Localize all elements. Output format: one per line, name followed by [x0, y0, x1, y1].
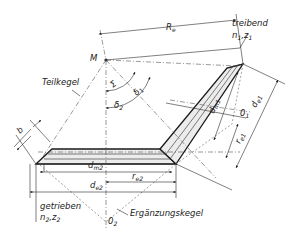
delta2-label: δ2: [114, 100, 123, 111]
delta1-label: δ1: [131, 84, 145, 98]
o1-label: 01: [240, 108, 249, 119]
apex-label: M: [90, 53, 98, 63]
o2-label: 02: [108, 216, 117, 227]
driving-label: treibend: [232, 18, 268, 28]
complementary-cone-label: Ergänzungskegel: [130, 208, 204, 218]
driving-gear-body: [160, 64, 243, 164]
shaft-angle-label: Σ: [108, 78, 119, 90]
pitch-cone-label: Teilkegel: [42, 77, 80, 87]
driven-label: getrieben: [40, 201, 81, 211]
re2-label: re2: [132, 171, 143, 182]
face-width-label: b: [14, 125, 25, 136]
bevel-gear-diagram: M Re treibend n1,z1 Teilkegel Σ δ1 δ2 b …: [0, 0, 288, 239]
de1-label: de1: [249, 93, 264, 109]
driving-speed-teeth-label: n1,z1: [232, 30, 252, 41]
re-label: Re: [166, 22, 176, 33]
de2-label: de2: [90, 180, 103, 191]
driven-speed-teeth-label: n2,z2: [40, 212, 60, 223]
